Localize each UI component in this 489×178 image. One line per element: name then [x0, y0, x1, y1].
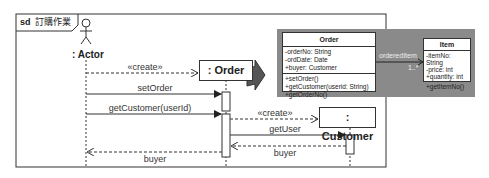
item-class-operations: +getItemNo(): [424, 81, 470, 91]
order-class-operations: +setOrder() +getCustomer(userid: String)…: [283, 73, 375, 100]
actor-icon: [80, 19, 92, 44]
order-class[interactable]: Order -orderNo: String -ordDate: Date +b…: [282, 32, 376, 92]
attribute: +quantity: int: [426, 73, 468, 80]
operation: +getItemNo(): [426, 83, 468, 90]
msg-create-customer: «create»: [240, 108, 310, 118]
msg-setorder: setOrder: [100, 83, 210, 93]
frame-tab: sd訂購作業: [16, 14, 71, 31]
actor-label: : Actor: [72, 49, 104, 60]
msg-create-order: «create»: [100, 62, 190, 72]
association-role: orderedItem: [379, 52, 417, 59]
msg-getcustomer: getCustomer(userId): [90, 103, 210, 113]
order-lifeline-label: : Order: [208, 64, 245, 76]
order-lifeline-box[interactable]: : Order: [199, 60, 253, 81]
item-class[interactable]: Item -itemNo: String -price: int +quanti…: [423, 38, 471, 82]
msg-getuser: getUser: [250, 124, 320, 134]
operation: +setOrder(): [285, 75, 373, 83]
msg-buyer-2: buyer: [110, 154, 200, 164]
msg-buyer-1: buyer: [250, 148, 320, 158]
item-class-attributes: -itemNo: String -price: int +quantity: i…: [424, 51, 470, 81]
operation: +getCustomer(userid: String): [285, 83, 373, 91]
attribute: -orderNo: String: [285, 48, 373, 56]
frame-keyword: sd: [20, 17, 31, 27]
item-class-name: Item: [424, 39, 470, 51]
attribute: -ordDate: Date: [285, 56, 373, 64]
order-class-attributes: -orderNo: String -ordDate: Date +buyer: …: [283, 47, 375, 73]
frame-name: 訂購作業: [35, 17, 71, 27]
attribute: -itemNo: String: [426, 52, 468, 66]
order-class-name: Order: [283, 33, 375, 47]
order-activation-2: [222, 114, 230, 157]
customer-lifeline-label: : Customer: [322, 111, 373, 142]
association-multiplicity: 1..*: [408, 64, 419, 71]
attribute: +buyer: Customer: [285, 64, 373, 72]
operation: +getOrderNo(): [285, 91, 373, 99]
customer-lifeline-box[interactable]: : Customer: [319, 107, 376, 128]
order-activation-1: [222, 92, 230, 111]
attribute: -price: int: [426, 66, 468, 73]
